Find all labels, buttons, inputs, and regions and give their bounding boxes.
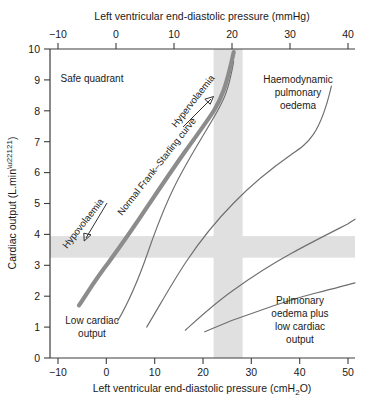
- cardiac-function-chart: −10 0 10 20 30 40 Left ventricular end-d…: [0, 0, 367, 399]
- safe-quadrant-label: Safe quadrant: [61, 73, 124, 84]
- y-axis-title: Cardiac output (L.min\u22121): [5, 137, 18, 270]
- bottom-tick-label: 30: [245, 366, 257, 378]
- y-tick-label: 7: [34, 136, 40, 148]
- top-tick-label: 20: [226, 28, 238, 40]
- annotation-line: Pulmonary: [276, 295, 324, 306]
- annotation-line: pulmonary: [275, 87, 322, 98]
- annotation-line: low cardiac: [275, 321, 325, 332]
- top-tick-label: 30: [284, 28, 296, 40]
- annotation-line: Low cardiac: [65, 315, 118, 326]
- y-tick-label: 10: [28, 43, 40, 55]
- bottom-axis-title: Left ventricular end-diastolic pressure …: [93, 382, 312, 397]
- top-tick-label: −10: [49, 28, 67, 40]
- y-axis-tick-labels: 0 1 2 3 4 5 6 7 8 9 10: [28, 43, 40, 364]
- top-tick-label: 40: [342, 28, 354, 40]
- top-axis-title: Left ventricular end-diastolic pressure …: [94, 10, 309, 22]
- top-tick-label: 0: [113, 28, 119, 40]
- y-tick-label: 4: [34, 228, 40, 240]
- y-tick-label: 1: [34, 321, 40, 333]
- y-axis-ticks: [44, 49, 50, 358]
- y-tick-label: 8: [34, 105, 40, 117]
- top-axis-ticks: [58, 43, 348, 49]
- y-tick-label: 2: [34, 290, 40, 302]
- bottom-tick-label: −10: [49, 366, 67, 378]
- bottom-axis-ticks: [58, 358, 348, 364]
- annotation-line: Haemodynamic: [263, 74, 332, 85]
- chart-svg: −10 0 10 20 30 40 Left ventricular end-d…: [0, 0, 367, 399]
- y-tick-label: 5: [34, 197, 40, 209]
- annotation-line: oedema: [280, 100, 317, 111]
- bottom-tick-label: 50: [342, 366, 354, 378]
- annotation-line: oedema plus: [271, 308, 328, 319]
- annotation-line: output: [78, 328, 106, 339]
- bottom-tick-label: 40: [294, 366, 306, 378]
- y-tick-label: 9: [34, 74, 40, 86]
- bottom-tick-label: 20: [197, 366, 209, 378]
- y-tick-label: 3: [34, 259, 40, 271]
- bottom-tick-label: 10: [149, 366, 161, 378]
- bottom-axis-tick-labels: −10 0 10 20 30 40 50: [49, 366, 354, 378]
- critical-filling-pressure-band: [214, 49, 243, 358]
- top-axis-tick-labels: −10 0 10 20 30 40: [49, 28, 354, 40]
- y-tick-label: 0: [34, 352, 40, 364]
- bottom-tick-label: 0: [103, 366, 109, 378]
- y-tick-label: 6: [34, 166, 40, 178]
- top-tick-label: 10: [168, 28, 180, 40]
- annotation-line: output: [286, 334, 314, 345]
